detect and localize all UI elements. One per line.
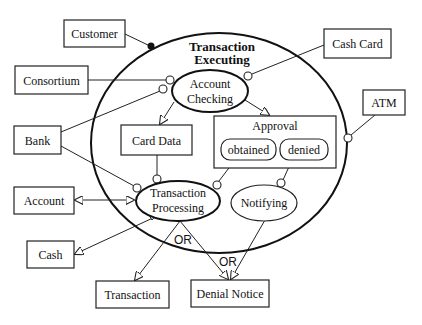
link-result-approval	[245, 100, 269, 115]
state-obtained-label: obtained	[228, 143, 269, 157]
account-checking-label-2: Checking	[187, 92, 233, 106]
cash-card-label: Cash Card	[332, 37, 382, 51]
consortium-label: Consortium	[23, 74, 80, 88]
instrument-port-icon	[213, 181, 221, 189]
instrument-port-icon	[133, 184, 141, 192]
instrument-port-icon	[159, 85, 167, 93]
customer-label: Customer	[71, 27, 118, 41]
approval-label: Approval	[252, 119, 298, 133]
instrument-port-icon	[244, 72, 252, 80]
cash-label: Cash	[39, 248, 63, 262]
account-label: Account	[24, 194, 65, 208]
transaction-label: Transaction	[104, 288, 160, 302]
link-customer-agent	[125, 34, 150, 46]
link-result-cash	[75, 217, 155, 254]
transaction-processing-label-1: Transaction	[150, 186, 206, 200]
state-denied-label: denied	[288, 143, 320, 157]
transaction-executing-label-2: Executing	[194, 52, 250, 67]
denial-notice-label: Denial Notice	[197, 287, 264, 301]
agent-dot-icon	[148, 43, 155, 50]
opd-diagram: Transaction Executing OR OR Account	[0, 0, 422, 325]
transaction-processing-label-2: Processing	[152, 201, 204, 215]
instrument-port-icon	[344, 134, 352, 142]
or-label-2: OR	[219, 255, 237, 269]
account-checking-label-1: Account	[190, 77, 231, 91]
card-data-label: Card Data	[132, 134, 182, 148]
notifying-label: Notifying	[241, 196, 288, 210]
link-result-card-data	[160, 102, 174, 124]
link-atm	[351, 115, 375, 135]
or-label-1: OR	[174, 233, 192, 247]
link-result-denial-notifying	[231, 220, 265, 279]
instrument-port-icon	[153, 175, 161, 183]
instrument-port-icon	[166, 76, 174, 84]
instrument-port-icon	[277, 179, 285, 187]
bank-label: Bank	[25, 134, 50, 148]
atm-label: ATM	[371, 96, 397, 110]
